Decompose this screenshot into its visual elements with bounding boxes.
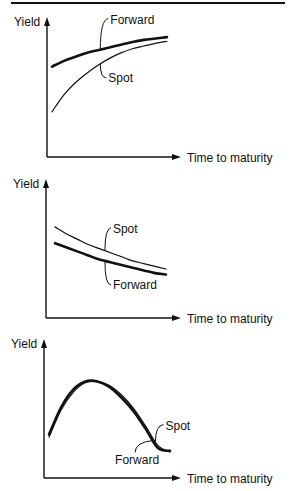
series-label-forward: Forward	[115, 453, 159, 467]
x-axis-label: Time to maturity	[187, 151, 273, 165]
x-axis-arrow-icon	[172, 475, 181, 481]
series-label-forward: Forward	[110, 13, 154, 27]
x-axis-arrow-icon	[172, 315, 181, 321]
x-axis-label: Time to maturity	[187, 472, 273, 486]
series-label-spot: Spot	[108, 71, 133, 85]
x-axis-label: Time to maturity	[187, 312, 273, 326]
y-axis-arrow-icon	[41, 339, 47, 348]
label-leader-forward	[100, 19, 108, 50]
label-leader-forward	[135, 440, 153, 452]
series-label-forward: Forward	[113, 278, 157, 292]
y-axis-label: Yield	[14, 15, 40, 29]
y-axis-label: Yield	[13, 177, 39, 191]
y-axis-arrow-icon	[44, 17, 50, 26]
series-label-spot: Spot	[113, 222, 138, 236]
y-axis-arrow-icon	[43, 179, 49, 188]
x-axis-arrow-icon	[172, 154, 181, 160]
label-leader-spot	[100, 64, 106, 78]
series-line-forward	[55, 243, 166, 274]
yield-curve-figure: YieldTime to maturityForwardSpotYieldTim…	[0, 0, 291, 491]
y-axis-label: Yield	[11, 337, 37, 351]
chart-panel-2: YieldTime to maturitySpotForward	[13, 177, 273, 326]
series-line-forward	[52, 37, 167, 66]
label-leader-spot	[105, 228, 111, 251]
series-label-spot: Spot	[165, 419, 190, 433]
chart-panel-3: YieldTime to maturitySpotForward	[11, 337, 273, 486]
label-leader-forward	[105, 261, 111, 285]
label-leader-spot	[155, 425, 163, 442]
chart-panel-1: YieldTime to maturityForwardSpot	[14, 13, 273, 165]
